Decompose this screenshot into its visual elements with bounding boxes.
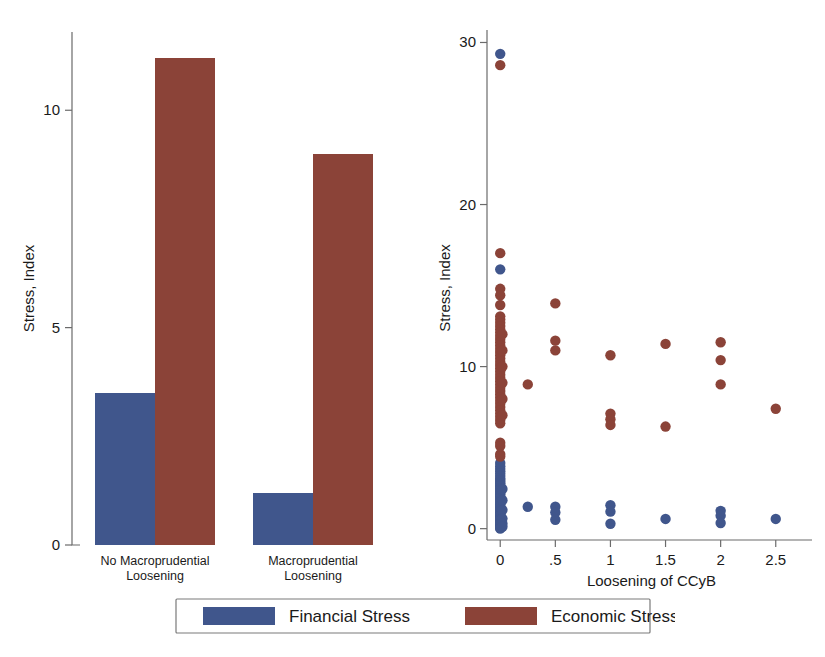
- scatter-point-economic: [497, 345, 507, 355]
- bar-chart-panel: 0510 No MacroprudentialLooseningMacropru…: [0, 0, 430, 590]
- scatter-point-financial: [523, 502, 533, 512]
- bar-chart-bars: [95, 58, 373, 545]
- scatter-y-tick-label: 20: [459, 196, 476, 213]
- legend-swatch-financial: [203, 607, 275, 625]
- scatter-point-economic: [497, 378, 507, 388]
- scatter-point-economic: [497, 329, 507, 339]
- bar-category-label-1: No Macroprudential: [100, 554, 209, 568]
- legend-label-financial: Financial Stress: [289, 607, 410, 626]
- bar-economic-group1: [155, 58, 215, 545]
- scatter-point-economic: [495, 451, 505, 461]
- scatter-x-tick-label: .5: [549, 551, 562, 568]
- scatter-x-axis-title: Loosening of CCyB: [587, 572, 716, 589]
- scatter-point-economic: [495, 60, 505, 70]
- bar-financial-group2: [253, 493, 313, 545]
- scatter-point-economic: [497, 410, 507, 420]
- scatter-x-tick-label: 1.5: [655, 551, 676, 568]
- scatter-point-economic: [715, 337, 725, 347]
- scatter-point-economic: [660, 339, 670, 349]
- scatter-y-axis-label: Stress, Index: [436, 244, 453, 332]
- scatter-point-financial: [497, 484, 507, 494]
- scatter-point-financial: [715, 518, 725, 528]
- scatter-point-economic: [497, 361, 507, 371]
- chart-legend: Financial StressEconomic Stress: [175, 595, 675, 655]
- scatter-point-financial: [660, 514, 670, 524]
- bar-chart-y-axis-title: Stress, Index: [20, 244, 37, 332]
- scatter-x-axis: 0.511.522.5: [487, 540, 812, 568]
- scatter-point-economic: [660, 421, 670, 431]
- scatter-point-economic: [715, 355, 725, 365]
- scatter-point-economic: [715, 379, 725, 389]
- legend-swatch-economic: [465, 607, 537, 625]
- scatter-point-financial: [497, 495, 507, 505]
- scatter-x-tick-label: 2.5: [765, 551, 786, 568]
- scatter-y-tick-label: 10: [459, 358, 476, 375]
- bar-y-tick-label: 0: [52, 536, 60, 553]
- scatter-point-economic: [495, 248, 505, 258]
- scatter-y-tick-label: 30: [459, 33, 476, 50]
- bar-category-label-2: Macroprudential: [268, 554, 358, 568]
- scatter-x-tick-label: 2: [716, 551, 724, 568]
- scatter-x-tick-label: 0: [496, 551, 504, 568]
- scatter-point-economic: [550, 298, 560, 308]
- scatter-x-axis-label: Loosening of CCyB: [587, 572, 716, 589]
- scatter-point-financial: [495, 264, 505, 274]
- scatter-point-economic: [550, 335, 560, 345]
- bar-y-axis-line: [72, 32, 80, 545]
- scatter-point-financial: [550, 515, 560, 525]
- scatter-point-economic: [497, 394, 507, 404]
- scatter-point-economic: [605, 420, 615, 430]
- scatter-point-economic: [550, 345, 560, 355]
- scatter-point-economic: [523, 379, 533, 389]
- bar-y-tick-label: 10: [43, 101, 60, 118]
- scatter-y-axis-title: Stress, Index: [436, 244, 453, 332]
- scatter-point-financial: [771, 514, 781, 524]
- scatter-x-tick-label: 1: [606, 551, 614, 568]
- scatter-point-financial: [497, 522, 507, 532]
- bar-y-axis-label: Stress, Index: [20, 244, 37, 332]
- scatter-point-financial: [495, 49, 505, 59]
- scatter-point-economic: [495, 290, 505, 300]
- scatter-point-economic: [495, 300, 505, 310]
- scatter-chart-panel: 0102030 0.511.522.5 Stress, Index Loosen…: [430, 0, 825, 590]
- scatter-points: [495, 49, 781, 534]
- bar-financial-group1: [95, 393, 155, 545]
- legend-label-economic: Economic Stress: [551, 607, 675, 626]
- scatter-point-economic: [771, 404, 781, 414]
- scatter-point-economic: [605, 350, 615, 360]
- scatter-y-axis: 0102030: [459, 30, 487, 540]
- bar-economic-group2: [313, 154, 373, 545]
- scatter-point-financial: [605, 506, 615, 516]
- figure-container: 0510 No MacroprudentialLooseningMacropru…: [0, 0, 825, 657]
- bar-chart-category-labels: No MacroprudentialLooseningMacroprudenti…: [100, 554, 357, 583]
- bar-y-tick-label: 5: [52, 319, 60, 336]
- bar-chart-y-axis: 0510: [43, 32, 80, 553]
- scatter-y-tick-label: 0: [468, 520, 476, 537]
- bar-category-label-1: Loosening: [126, 569, 184, 583]
- bar-category-label-2: Loosening: [284, 569, 342, 583]
- scatter-point-financial: [605, 519, 615, 529]
